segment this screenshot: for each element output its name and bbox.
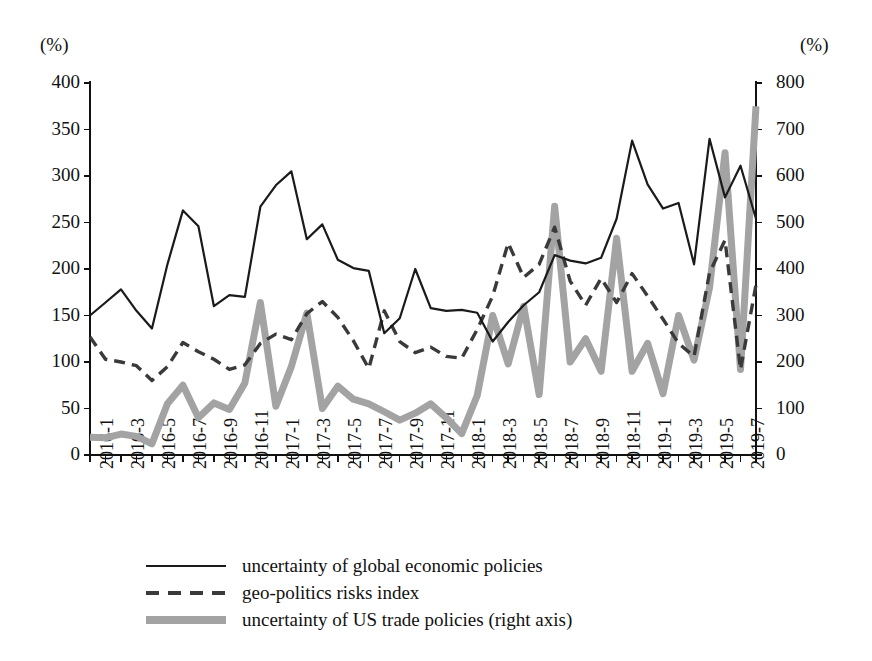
- legend-item[interactable]: uncertainty of US trade policies (right …: [140, 606, 700, 633]
- legend-swatch: [146, 565, 226, 568]
- legend-item[interactable]: uncertainty of global economic policies: [140, 552, 700, 579]
- series-lines: [90, 106, 756, 444]
- legend-item-label: geo-politics risks index: [242, 582, 419, 604]
- series-line: [90, 106, 756, 444]
- chart-legend: uncertainty of global economic policiesg…: [140, 552, 700, 633]
- dashed-line-key: [140, 586, 232, 600]
- legend-item-label: uncertainty of global economic policies: [242, 555, 543, 577]
- chart-figure: (%) (%) 050100150200250300350400 0100200…: [0, 0, 872, 661]
- series-line: [90, 139, 756, 342]
- legend-swatch: [146, 616, 226, 624]
- series-line: [90, 227, 756, 380]
- solid-line-key: [140, 559, 232, 573]
- thick-line-key: [140, 613, 232, 627]
- legend-swatch: [146, 591, 226, 595]
- legend-item[interactable]: geo-politics risks index: [140, 579, 700, 606]
- legend-item-label: uncertainty of US trade policies (right …: [242, 609, 572, 631]
